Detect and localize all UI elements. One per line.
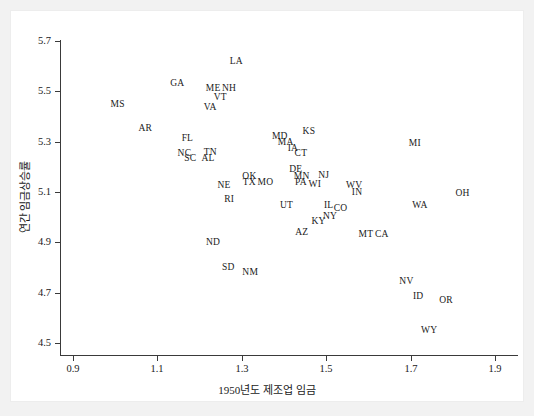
x-tick-label: 1.3 [222,364,262,375]
data-point-label: RI [224,195,234,205]
data-point-label: ND [206,239,220,249]
x-tick-label: 0.9 [53,364,93,375]
y-tick-mark [55,41,60,42]
data-point-label: SC [184,154,196,164]
x-tick-label: 1.5 [306,364,346,375]
data-point-label: KS [303,127,316,137]
y-tick-mark [55,242,60,243]
y-tick-mark [55,142,60,143]
data-point-label: KY [312,217,326,227]
data-point-label: NV [399,277,413,287]
y-tick-label: 5.7 [17,36,51,47]
data-point-label: GA [170,79,184,89]
data-point-label: NH [222,84,236,94]
data-point-label: MS [111,101,125,111]
x-axis-title: 1950년도 제조업 임금 [11,381,523,397]
data-point-label: CT [295,149,308,159]
x-tick-mark [242,356,243,361]
y-tick-label: 4.7 [17,288,51,299]
y-tick-mark [55,91,60,92]
y-axis-title: 연간 임금상승률 [16,112,32,282]
y-tick-mark [55,343,60,344]
data-point-label: WA [412,201,427,211]
data-point-label: NM [242,268,258,278]
data-point-label: OR [439,296,453,306]
data-point-label: ID [413,292,423,302]
x-tick-label: 1.1 [137,364,177,375]
data-point-label: NJ [318,171,329,181]
data-point-label: AL [201,154,214,164]
x-tick-mark [495,356,496,361]
data-point-label: AZ [295,228,308,238]
data-point-label: WY [421,326,437,336]
data-point-label: OH [455,189,469,199]
data-point-label: IN [352,188,362,198]
y-axis-line [60,40,61,355]
figure-panel: 5.75.55.35.14.94.74.5 0.91.11.31.51.71.9… [11,11,523,401]
data-point-label: VT [214,93,227,103]
x-tick-label: 1.7 [391,364,431,375]
x-tick-mark [157,356,158,361]
data-point-label: LA [230,57,243,67]
y-tick-label: 4.5 [17,338,51,349]
y-tick-mark [55,192,60,193]
data-point-label: MO [258,179,274,189]
data-point-label: NE [218,181,231,191]
y-tick-mark [55,293,60,294]
data-point-label: MI [409,139,421,149]
data-point-label: WI [309,180,322,190]
y-tick-label: 5.5 [17,86,51,97]
data-point-label: UT [280,201,293,211]
data-point-label: FL [182,134,194,144]
x-tick-mark [73,356,74,361]
data-point-label: AR [138,124,152,134]
x-tick-label: 1.9 [475,364,515,375]
data-point-label: VA [204,104,217,114]
x-tick-mark [326,356,327,361]
x-axis-line [60,355,518,356]
data-point-label: TX [243,179,256,189]
data-point-label: IL [324,201,333,211]
data-point-label: MT [359,230,374,240]
data-point-label: CA [375,230,389,240]
x-tick-mark [411,356,412,361]
scatter-plot: 5.75.55.35.14.94.74.5 0.91.11.31.51.71.9… [11,11,523,401]
data-point-label: SD [222,263,235,273]
data-point-label: PA [295,179,307,189]
